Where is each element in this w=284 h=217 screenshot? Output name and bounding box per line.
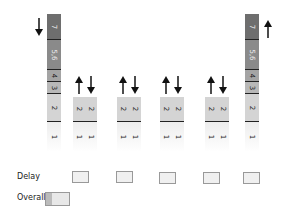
right-stack: 7 5,6 4 3 2 1 (245, 0, 259, 160)
arrow-down-icon (35, 18, 43, 36)
delay-box (72, 171, 89, 183)
segment-3: 3 (245, 82, 259, 94)
arrow-down-icon (87, 76, 95, 94)
delay-label: Delay (17, 172, 40, 181)
delay-box (243, 172, 260, 184)
segment-2-pair: 22 (160, 97, 184, 122)
segment-1-pair: 11 (205, 122, 229, 152)
segment-2: 2 (245, 94, 259, 122)
overall-box (45, 192, 70, 206)
delay-box (116, 171, 133, 183)
segment-3: 3 (47, 82, 61, 94)
segment-4: 4 (47, 70, 61, 82)
arrow-up-icon (162, 76, 170, 94)
arrow-down-icon (174, 76, 182, 94)
segment-1: 1 (47, 122, 61, 152)
pair-3: 22 11 (160, 0, 184, 160)
segment-2-pair: 22 (73, 97, 97, 122)
segment-7: 7 (47, 14, 61, 40)
segment-1-pair: 11 (160, 122, 184, 152)
segment-5-6: 5,6 (245, 40, 259, 70)
segment-7: 7 (245, 14, 259, 40)
pair-4: 22 11 (205, 0, 229, 160)
segment-5-6: 5,6 (47, 40, 61, 70)
arrow-up-icon (75, 76, 83, 94)
arrow-up-icon (207, 76, 215, 94)
segment-2-pair: 22 (117, 97, 141, 122)
arrow-down-icon (219, 76, 227, 94)
segment-1-pair: 11 (73, 122, 97, 152)
delay-box (159, 172, 176, 184)
segment-2: 2 (47, 94, 61, 122)
delay-box (203, 172, 220, 184)
segment-2-pair: 22 (205, 97, 229, 122)
segment-1: 1 (245, 122, 259, 152)
pair-1: 22 11 (73, 0, 97, 160)
left-stack: 7 5,6 4 3 2 1 (47, 0, 61, 160)
overall-label: Overall (17, 193, 46, 202)
arrow-up-icon (264, 20, 272, 38)
segment-1-pair: 11 (117, 122, 141, 152)
segment-4: 4 (245, 70, 259, 82)
arrow-down-icon (131, 76, 139, 94)
pair-2: 22 11 (117, 0, 141, 160)
arrow-up-icon (119, 76, 127, 94)
